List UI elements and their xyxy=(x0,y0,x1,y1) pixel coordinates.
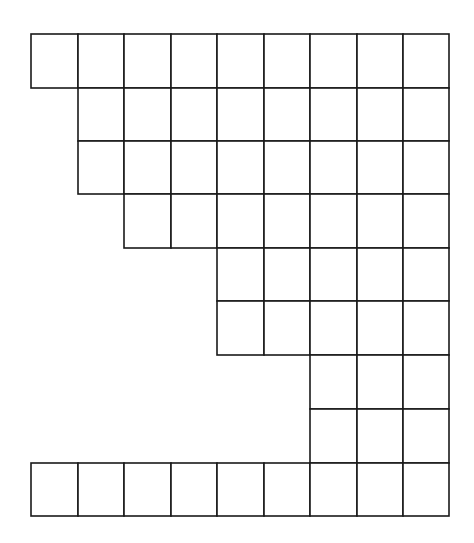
grid-cell xyxy=(310,34,357,88)
grid-cell xyxy=(78,141,124,194)
grid-cell xyxy=(403,355,449,409)
grid-cell xyxy=(217,194,264,248)
grid-row xyxy=(310,409,449,463)
grid-cell xyxy=(357,141,403,194)
grid-cell xyxy=(264,141,310,194)
grid-cell xyxy=(403,409,449,463)
grid-cell xyxy=(310,141,357,194)
grid-cell xyxy=(357,88,403,141)
grid-cell xyxy=(217,141,264,194)
grid-cell xyxy=(403,301,449,355)
grid-cell xyxy=(310,463,357,516)
grid-cell xyxy=(357,355,403,409)
grid-cell xyxy=(403,88,449,141)
grid-cell xyxy=(31,463,78,516)
grid-cell xyxy=(310,355,357,409)
grid-cell xyxy=(310,88,357,141)
grid-cell xyxy=(264,194,310,248)
grid-cell xyxy=(171,463,217,516)
grid-cell xyxy=(310,194,357,248)
grid-cell xyxy=(171,141,217,194)
grid-cell xyxy=(264,301,310,355)
grid-cell xyxy=(78,88,124,141)
grid-cell xyxy=(171,88,217,141)
grid-row xyxy=(31,463,449,516)
grid-row xyxy=(78,88,449,141)
grid-cell xyxy=(357,194,403,248)
grid-cell xyxy=(264,463,310,516)
grid-cell xyxy=(357,301,403,355)
grid-row xyxy=(78,141,449,194)
grid-cell xyxy=(310,301,357,355)
grid-cell xyxy=(171,34,217,88)
grid-row xyxy=(217,248,449,301)
grid-cell xyxy=(403,141,449,194)
cell-grid-diagram xyxy=(0,0,474,543)
grid-cell xyxy=(217,88,264,141)
grid-cell xyxy=(78,463,124,516)
grid-cell xyxy=(124,194,171,248)
grid-cell xyxy=(403,194,449,248)
grid-cell xyxy=(171,194,217,248)
grid-cell xyxy=(357,34,403,88)
grid-cell xyxy=(124,141,171,194)
grid-cell xyxy=(310,409,357,463)
grid-cell xyxy=(357,463,403,516)
grid-cell xyxy=(217,301,264,355)
grid-cell xyxy=(217,463,264,516)
grid-cell xyxy=(217,248,264,301)
grid-cell xyxy=(403,34,449,88)
grid-cell xyxy=(357,248,403,301)
grid-cell xyxy=(357,409,403,463)
grid-cell xyxy=(264,34,310,88)
grid-cell xyxy=(124,88,171,141)
grid-cell xyxy=(264,248,310,301)
grid-row xyxy=(31,34,449,88)
grid-cell xyxy=(124,34,171,88)
grid-cell xyxy=(264,88,310,141)
grid-row xyxy=(217,301,449,355)
grid-cell xyxy=(124,463,171,516)
grid-cell xyxy=(403,248,449,301)
grid-cell xyxy=(310,248,357,301)
grid-cell xyxy=(78,34,124,88)
grid-row xyxy=(124,194,449,248)
grid-row xyxy=(310,355,449,409)
grid-cell xyxy=(31,34,78,88)
grid-cell xyxy=(217,34,264,88)
grid-cell xyxy=(403,463,449,516)
